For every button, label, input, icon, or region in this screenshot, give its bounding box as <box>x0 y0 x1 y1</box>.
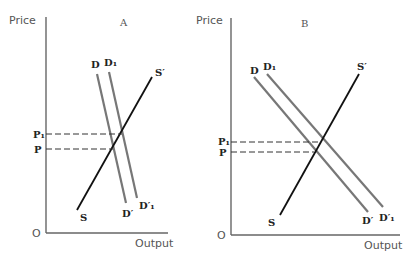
panel-b-label-p1: P₁ <box>218 136 230 147</box>
panel-a-y-axis-label: Price <box>9 14 36 27</box>
panel-a-demand-curve-d1 <box>109 72 137 198</box>
panel-a-demand-curve-d <box>97 74 126 203</box>
panel-b-title: B <box>301 18 308 29</box>
panel-a-label-d: D <box>91 59 100 70</box>
panel-b-label-s-prime: S′ <box>357 61 367 72</box>
panel-a-label-d1-prime: D′₁ <box>139 200 155 211</box>
supply-demand-diagram: Price A O Output D D₁ S′ S D′ D′₁ P₁ P P… <box>0 0 407 256</box>
panel-b-label-d1-prime: D′₁ <box>379 212 395 223</box>
panel-a-x-axis-label: Output <box>135 237 174 250</box>
panel-a-label-p: P <box>34 144 42 155</box>
panel-a: Price A O Output D D₁ S′ S D′ D′₁ P₁ P <box>9 14 174 250</box>
panel-a-label-d-prime: D′ <box>122 208 134 219</box>
panel-a-title: A <box>119 17 128 28</box>
panel-a-label-s-prime: S′ <box>155 67 165 78</box>
panel-b-label-p: P <box>219 147 227 158</box>
panel-b-demand-curve-d1 <box>267 74 383 207</box>
panel-b-y-axis-label: Price <box>196 14 223 27</box>
panel-b-supply-curve <box>280 74 359 215</box>
panel-b-label-d: D <box>250 65 259 76</box>
panel-a-label-p1: P₁ <box>33 129 45 140</box>
panel-a-label-d1: D₁ <box>104 57 117 68</box>
panel-b-label-d1: D₁ <box>263 61 276 72</box>
panel-b-demand-curve-d <box>254 77 368 212</box>
panel-b: Price B O Output D D₁ S′ S D′ D′₁ P₁ P <box>196 14 403 252</box>
panel-a-origin-label: O <box>32 227 41 240</box>
panel-b-origin-label: O <box>217 229 226 242</box>
panel-b-x-axis-label: Output <box>364 239 403 252</box>
panel-b-label-s: S <box>268 217 275 228</box>
panel-a-label-s: S <box>80 212 87 223</box>
panel-b-label-d-prime: D′ <box>362 215 374 226</box>
